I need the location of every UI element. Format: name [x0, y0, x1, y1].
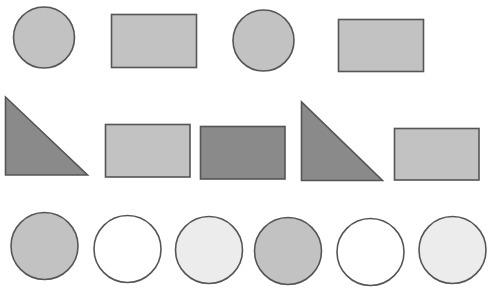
row2-rectangle-3	[395, 129, 480, 181]
row1-circle-1	[14, 7, 75, 68]
row2-rectangle-1	[106, 125, 191, 178]
row-1	[14, 7, 424, 72]
shapes-diagram	[0, 0, 491, 298]
row3-circle-1	[11, 213, 78, 280]
row3-circle-4	[255, 218, 322, 285]
row3-circle-3	[176, 217, 243, 284]
row1-rectangle-1	[112, 15, 197, 68]
row3-circle-6	[419, 217, 486, 284]
row3-circle-2	[94, 216, 161, 283]
row-2	[6, 97, 480, 181]
row-3	[11, 213, 486, 286]
row2-triangle-1	[6, 97, 88, 175]
row3-circle-5	[337, 219, 404, 286]
row1-rectangle-2	[339, 20, 424, 72]
row1-circle-2	[233, 10, 294, 71]
row2-rectangle-2	[201, 127, 286, 180]
row2-triangle-2	[302, 102, 383, 181]
